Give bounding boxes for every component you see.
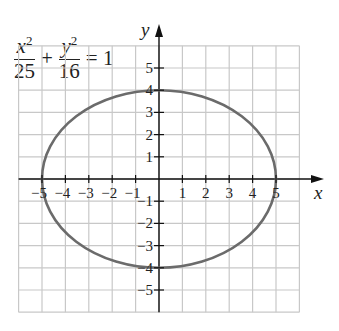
y-tick-label: −1 — [137, 193, 153, 209]
x-tick-label: 4 — [249, 185, 257, 201]
x-tick-label: −5 — [31, 185, 47, 201]
y-axis-arrow-icon — [155, 24, 163, 37]
x-tick-label: 5 — [272, 185, 280, 201]
y-tick-label: 4 — [146, 82, 154, 98]
y-tick-label: 5 — [146, 60, 154, 76]
y-tick-label: 2 — [146, 127, 154, 143]
x-tick-label: −4 — [54, 185, 70, 201]
x-tick-label: 2 — [202, 185, 210, 201]
x-tick-label: −3 — [78, 185, 94, 201]
x-tick-label: 1 — [179, 185, 187, 201]
y-tick-label: −4 — [137, 260, 153, 276]
y-tick-label: 1 — [146, 149, 154, 165]
y-tick-label: 3 — [146, 104, 154, 120]
x-axis-label: x — [313, 182, 323, 203]
y-tick-label: −2 — [137, 215, 153, 231]
y-tick-label: −3 — [137, 238, 153, 254]
x-tick-label: 3 — [225, 185, 233, 201]
y-axis-label: y — [139, 19, 150, 40]
ellipse-plot: xy −5−4−3−2−112345−5−4−3−2−112345 — [0, 0, 339, 331]
y-tick-label: −5 — [137, 282, 153, 298]
x-tick-label: −2 — [101, 185, 117, 201]
